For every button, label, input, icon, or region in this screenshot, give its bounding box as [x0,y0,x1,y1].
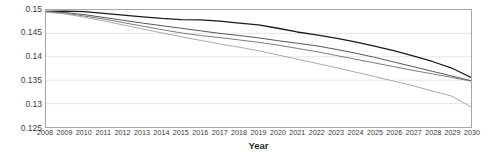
x-axis-tick-label: 2021 [289,128,305,137]
x-axis-tick-label: 2012 [115,128,131,137]
x-axis-tick-label: 2025 [367,128,383,137]
x-axis-tick-label: 2014 [153,128,169,137]
x-axis-tick-label: 2017 [212,128,228,137]
x-axis-tick-label: 2024 [348,128,364,137]
y-axis-tick-label: 0.14 [25,52,42,61]
x-axis-title: Year [45,140,472,151]
x-axis-tick-label: 2010 [76,128,92,137]
line-chart: 0.150.1450.140.1350.130.125 200820092010… [0,0,488,162]
x-axis-tick-label: 2022 [309,128,325,137]
x-axis-tick-label: 2029 [445,128,461,137]
series-lines [46,10,471,127]
y-axis-tick-label: 0.13 [25,100,42,109]
x-axis-tick-label: 2009 [56,128,72,137]
x-axis-tick-label: 2028 [425,128,441,137]
plot-area [45,9,472,128]
y-axis-tick-label: 0.145 [21,28,42,37]
y-axis-tick-label: 0.15 [25,5,42,14]
data-line-4 [46,12,471,107]
x-axis-tick-label: 2019 [251,128,267,137]
x-axis-tick-label: 2023 [328,128,344,137]
x-axis-tick-label: 2026 [386,128,402,137]
y-axis: 0.150.1450.140.1350.130.125 [0,0,42,162]
x-axis-tick-label: 2018 [231,128,247,137]
x-axis-tick-label: 2015 [173,128,189,137]
x-axis-tick-label: 2030 [464,128,480,137]
x-axis-tick-label: 2016 [192,128,208,137]
x-axis-tick-label: 2013 [134,128,150,137]
y-axis-tick-label: 0.135 [21,76,42,85]
data-line-1 [46,11,471,77]
x-axis-tick-label: 2011 [95,128,110,137]
x-axis-tick-label: 2008 [37,128,53,137]
x-axis-tick-label: 2027 [406,128,422,137]
x-axis-tick-label: 2020 [270,128,286,137]
